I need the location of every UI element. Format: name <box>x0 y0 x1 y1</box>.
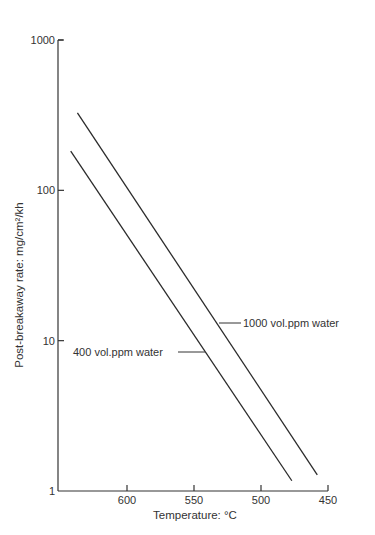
annotation-1000ppm: 1000 vol.ppm water <box>219 317 339 329</box>
series-line-1000ppm <box>77 113 317 475</box>
x-tick-label: 550 <box>185 494 203 506</box>
x-tick-label: 450 <box>319 494 337 506</box>
x-tick-label: 500 <box>252 494 270 506</box>
chart: 1101001000 600550500450 1000 vol.ppm wat… <box>0 0 375 535</box>
y-axis-label: Post-breakaway rate: mg/cm²/kh <box>13 202 25 368</box>
annotation-400ppm: 400 vol.ppm water <box>73 346 205 358</box>
y-tick-label: 1000 <box>31 34 55 46</box>
y-tick-label: 100 <box>37 184 55 196</box>
y-tick-label: 10 <box>43 335 55 347</box>
x-tick-label: 600 <box>118 494 136 506</box>
x-ticks: 600550500450 <box>118 485 337 506</box>
annotation-label-400ppm: 400 vol.ppm water <box>73 346 163 358</box>
axes <box>58 40 328 491</box>
y-tick-label: 1 <box>49 485 55 497</box>
x-axis-label: Temperature: °C <box>153 509 237 521</box>
annotation-label-1000ppm: 1000 vol.ppm water <box>243 317 339 329</box>
y-ticks: 1101001000 <box>31 34 64 497</box>
series-line-400ppm <box>71 151 292 481</box>
series <box>71 113 318 481</box>
